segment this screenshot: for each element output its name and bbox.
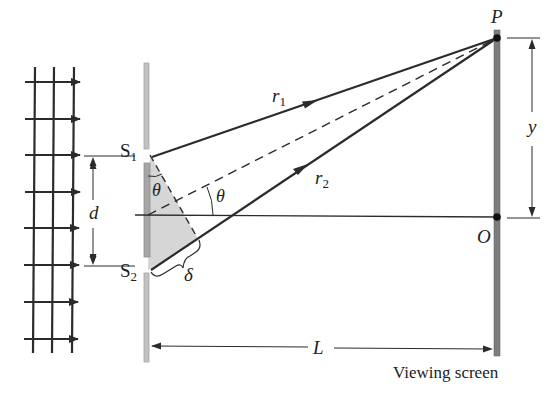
viewing-screen[interactable] [494, 30, 500, 356]
d-arrow-up [90, 157, 97, 166]
l-arrow-right [483, 346, 493, 353]
l-arrow-left [151, 343, 161, 350]
angle-label-center: θ [216, 187, 225, 205]
y-arrow-down [529, 207, 536, 217]
angle-arc-center [207, 187, 213, 215]
slit-barrier [144, 63, 150, 362]
angle-label-slit: θ [152, 181, 161, 199]
plane-waves [24, 67, 80, 353]
point-p-label: P [491, 7, 503, 26]
ray-r1-arrow-icon [302, 100, 318, 109]
point-o-marker [493, 213, 501, 221]
y-arrow-up [529, 39, 536, 49]
distance-label: L [313, 338, 324, 357]
central-axis [135, 215, 497, 217]
height-label: y [527, 117, 537, 136]
viewing-screen-caption: Viewing screen [393, 364, 498, 381]
point-o-label: O [477, 227, 491, 246]
d-arrow-down [90, 256, 97, 265]
slit-separation-label: d [88, 203, 100, 222]
point-p-marker [493, 34, 501, 42]
double-slit-diagram [0, 0, 554, 397]
ray-r2 [151, 38, 497, 270]
ray-r2-label: r2 [315, 168, 329, 190]
slit2-label: S2 [120, 261, 137, 283]
wavefront-line [52, 67, 54, 353]
wavefront-line [72, 67, 74, 353]
slit1-label: S1 [120, 141, 137, 163]
wavefront-line [33, 67, 35, 353]
ray-r1-label: r1 [272, 86, 286, 108]
ray-r1 [152, 38, 497, 157]
path-difference-triangle [148, 155, 198, 270]
path-difference-label: δ [184, 265, 193, 284]
